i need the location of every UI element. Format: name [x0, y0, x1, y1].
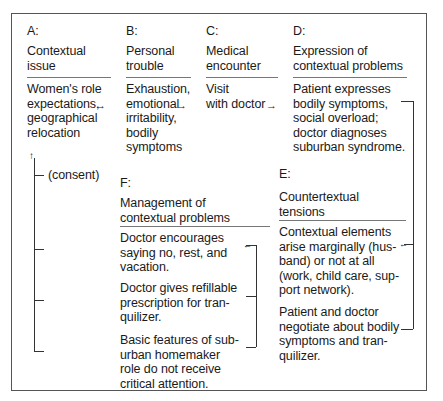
e-f-bracket-vertical — [256, 245, 257, 347]
section-d-letter: D: — [293, 24, 305, 39]
section-d-title: Expression of contextual problems — [293, 44, 403, 73]
section-d-divider — [293, 77, 407, 78]
section-e-divider — [279, 220, 406, 221]
feedback-tick-3 — [34, 351, 44, 352]
section-c-divider — [206, 77, 278, 78]
section-f-item-1: Doctor encourages saying no, rest, and v… — [120, 231, 227, 275]
e-f-bracket-mid — [246, 296, 256, 297]
consent-label: (consent) — [48, 168, 99, 183]
section-a-body: Women's role expectations, geographical … — [27, 82, 102, 140]
feedback-tick-2 — [34, 300, 44, 301]
e-bracket-bottom — [401, 329, 413, 330]
feedback-tick-consent — [34, 175, 44, 176]
section-e-item-2: Patient and doctor negotiate about bodil… — [279, 305, 399, 363]
arrow-c-to-d: → — [266, 99, 277, 111]
section-f-title: Management of contextual problems — [120, 196, 230, 225]
section-d-body: Patient expresses bodily symptoms, socia… — [293, 82, 405, 155]
arrow-a-to-b: → — [95, 99, 106, 111]
arrow-into-e: ← — [399, 238, 408, 250]
section-a-letter: A: — [27, 24, 39, 39]
section-e-item-1: Contextual elements arise marginally (hu… — [279, 225, 399, 298]
arrow-up-to-a: ↑ — [29, 150, 34, 162]
d-e-bracket-vertical — [413, 101, 414, 329]
section-a-title: Contextual issue — [27, 44, 86, 73]
section-b-title: Personal trouble — [126, 44, 175, 73]
section-e-letter: E: — [279, 167, 291, 182]
section-c-letter: C: — [206, 24, 218, 39]
d-bracket-top — [401, 101, 413, 102]
section-f-divider — [120, 226, 270, 227]
section-f-item-2: Doctor gives refillable prescription for… — [120, 281, 237, 325]
arrow-into-f: ← — [243, 239, 252, 251]
section-c-body: Visit with doctor — [206, 82, 265, 111]
section-b-letter: B: — [126, 24, 138, 39]
section-b-divider — [126, 77, 191, 78]
section-a-divider — [27, 77, 111, 78]
section-c-title: Medical encounter — [206, 44, 261, 73]
section-e-title: Countertextual tensions — [279, 190, 359, 219]
arrow-b-to-c: → — [176, 99, 187, 111]
section-b-body: Exhaustion, emotional irritability, bodi… — [126, 82, 190, 155]
section-f-item-3: Basic features of sub- urban homemaker r… — [120, 333, 239, 391]
feedback-vertical — [34, 158, 35, 351]
section-f-letter: F: — [120, 176, 131, 191]
feedback-tick-1 — [34, 249, 44, 250]
e-f-bracket-bottom — [246, 347, 256, 348]
